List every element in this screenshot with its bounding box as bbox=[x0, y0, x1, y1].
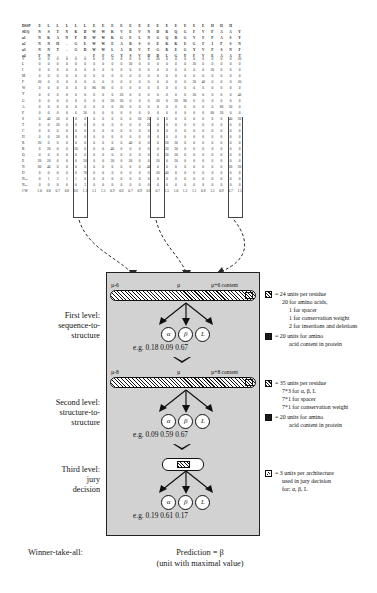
output-node-alpha: α bbox=[161, 414, 176, 429]
eg-alpha: 0.18 bbox=[146, 343, 159, 352]
legend-line: 7*3 for α, β, L bbox=[275, 387, 375, 395]
second-level-label-line1: Second level: bbox=[12, 398, 100, 408]
profile-cell: 1.0 bbox=[35, 189, 44, 195]
third-level-fan-arrows bbox=[155, 469, 217, 495]
legend-block-2: = 35 units per residue 7*3 for α, β, L 7… bbox=[275, 379, 375, 411]
first-level-example-values: e.g. 0.18 0.09 0.67 bbox=[133, 343, 188, 352]
output-node-beta: β bbox=[178, 327, 193, 342]
eg-loop: 0.17 bbox=[175, 511, 188, 520]
column-bracket-mid bbox=[150, 117, 165, 218]
legend-line: = 20 units for amino bbox=[275, 413, 375, 421]
eg-loop: 0.67 bbox=[175, 430, 188, 439]
legend-line: used in jury decision bbox=[275, 477, 375, 485]
profile-row: CW1.00.80.70.80.61.11.11.50.90.60.70.90.… bbox=[22, 189, 244, 195]
profile-cell: 1.1 bbox=[190, 189, 199, 195]
first-to-second-chevron bbox=[173, 357, 191, 363]
profile-cell: 0.9 bbox=[135, 189, 144, 195]
output-node-alpha: α bbox=[161, 327, 176, 342]
legend-line: 7*1 for conservation weight bbox=[275, 403, 375, 411]
network-architecture-panel: µ-6 µ µ+6 content α β L e.g. 0.18 0.09 0… bbox=[106, 272, 260, 536]
profile-cell: 1.5 bbox=[208, 189, 217, 195]
second-level-label-line3: structure bbox=[12, 418, 100, 428]
legend-line: acid content in protein bbox=[275, 340, 375, 348]
legend-block-2b: = 20 units for amino acid content in pro… bbox=[275, 413, 375, 429]
legend-hatched-square-icon-2 bbox=[265, 380, 272, 387]
legend-block-3: = 3 units per architecture used in jury … bbox=[275, 469, 375, 493]
profile-cell: 0.8 bbox=[199, 189, 208, 195]
profile-table: DSSPELLLLLEEEEEEEEEEEEEHHHSEQNSTNKDWWKVE… bbox=[22, 24, 244, 195]
first-level-output-nodes: α β L bbox=[161, 327, 210, 342]
third-level-label: Third level: jury decision bbox=[12, 465, 100, 496]
profile-cell: 0.7 bbox=[126, 189, 135, 195]
legend-line: 1 for conservation weight bbox=[275, 314, 375, 322]
eg-alpha: 0.09 bbox=[146, 430, 159, 439]
first-level-bar-label-left: µ-6 bbox=[111, 282, 119, 288]
column-bracket-left bbox=[73, 117, 88, 218]
legend-line: = 20 units for amino bbox=[275, 332, 375, 340]
second-level-bar-label-left: µ-8 bbox=[111, 369, 119, 375]
profile-cell: 1.2 bbox=[181, 189, 190, 195]
second-level-output-nodes: α β L bbox=[161, 414, 210, 429]
legend-hatched-square-icon-1 bbox=[265, 291, 272, 298]
output-node-loop: L bbox=[195, 327, 210, 342]
eg-loop: 0.67 bbox=[175, 343, 188, 352]
first-level-bar-label-right: µ+6 content bbox=[211, 282, 238, 288]
prediction-line: Prediction = β bbox=[130, 548, 270, 559]
legend-line: acid content in protein bbox=[275, 421, 375, 429]
profile-cell: 0.8 bbox=[44, 189, 53, 195]
eg-alpha: 0.19 bbox=[146, 511, 159, 520]
output-node-beta: β bbox=[178, 495, 193, 510]
first-level-bar-label-center: µ bbox=[177, 282, 180, 288]
profile-cell: 0.9 bbox=[108, 189, 117, 195]
prediction-result: Prediction = β (unit with maximal value) bbox=[130, 548, 270, 569]
legend-line: 7*1 for spacer bbox=[275, 395, 375, 403]
legend-line: = 3 units per architecture bbox=[275, 469, 375, 477]
eg-beta: 0.61 bbox=[160, 511, 173, 520]
eg-prefix: e.g. bbox=[133, 511, 144, 520]
jury-architecture-block bbox=[177, 461, 190, 468]
legend-line: 2 for insertions and deletions bbox=[275, 322, 375, 330]
third-level-output-nodes: α β L bbox=[161, 495, 210, 510]
profile-cell: 0.9 bbox=[217, 189, 226, 195]
legend-line: = 24 units per residue bbox=[275, 290, 375, 298]
legend-solid-square-icon-2 bbox=[265, 414, 272, 421]
profile-cell: 0.6 bbox=[117, 189, 126, 195]
first-level-label: First level: sequence-to- structure bbox=[12, 311, 100, 342]
eg-prefix: e.g. bbox=[133, 343, 144, 352]
column-bracket-right bbox=[228, 117, 243, 218]
second-level-content-block bbox=[245, 379, 253, 386]
first-level-content-block bbox=[245, 292, 253, 299]
legend-line: 20 for amino acids, bbox=[275, 298, 375, 306]
output-node-loop: L bbox=[195, 495, 210, 510]
first-level-label-line3: structure bbox=[12, 331, 100, 341]
legend-block-1b: = 20 units for amino acid content in pro… bbox=[275, 332, 375, 348]
legend-block-1: = 24 units per residue 20 for amino acid… bbox=[275, 290, 375, 330]
third-level-label-line2: jury bbox=[12, 475, 100, 485]
winner-take-all-label: Winner-take-all: bbox=[28, 548, 83, 559]
second-level-bar-label-center: µ bbox=[177, 369, 180, 375]
second-level-bar-label-right: µ+8 content bbox=[211, 369, 238, 375]
third-level-label-line3: decision bbox=[12, 485, 100, 495]
profile-cell: 1.1 bbox=[90, 189, 99, 195]
prediction-note: (unit with maximal value) bbox=[130, 559, 270, 570]
second-level-label-line2: structure-to- bbox=[12, 408, 100, 418]
first-level-input-bar bbox=[110, 290, 256, 301]
third-level-example-values: e.g. 0.19 0.61 0.17 bbox=[133, 511, 188, 520]
legend-line: = 35 units per residue bbox=[275, 379, 375, 387]
second-level-input-bar bbox=[110, 377, 256, 388]
output-node-alpha: α bbox=[161, 495, 176, 510]
legend-solid-square-icon-1 bbox=[265, 333, 272, 340]
legend-line: for: α, β, L bbox=[275, 485, 375, 493]
second-level-label: Second level: structure-to- structure bbox=[12, 398, 100, 429]
second-level-fan-arrows bbox=[155, 388, 217, 414]
first-level-label-line1: First level: bbox=[12, 311, 100, 321]
profile-cell: 0.7 bbox=[53, 189, 62, 195]
output-node-loop: L bbox=[195, 414, 210, 429]
second-to-third-chevron bbox=[173, 444, 191, 450]
legend-jury-square-icon bbox=[265, 470, 272, 477]
profile-cell: 1.5 bbox=[99, 189, 108, 195]
first-level-label-line2: sequence-to- bbox=[12, 321, 100, 331]
second-level-example-values: e.g. 0.09 0.59 0.67 bbox=[133, 430, 188, 439]
legend-line: 1 for spacer bbox=[275, 306, 375, 314]
eg-prefix: e.g. bbox=[133, 430, 144, 439]
